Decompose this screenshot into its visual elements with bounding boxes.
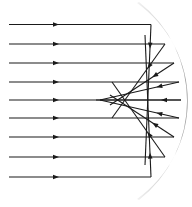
arrow-head-icon	[53, 98, 59, 103]
mirror-surface	[137, 2, 188, 200]
arrow-head-icon	[161, 98, 167, 103]
arrow-head-icon	[148, 42, 153, 48]
arrow-head-icon	[53, 116, 59, 121]
reflected-ray	[100, 82, 179, 100]
arrow-head-icon	[151, 121, 159, 128]
spherical-aberration-diagram: Spherical aberration in a concave mirror	[0, 0, 192, 207]
arrow-head-icon	[148, 153, 153, 159]
reflected-ray	[112, 82, 165, 157]
reflected-ray	[112, 44, 165, 118]
arrow-head-icon	[53, 175, 59, 180]
arrow-head-icon	[151, 72, 159, 79]
reflected-ray	[100, 100, 179, 118]
arrow-head-icon	[53, 135, 59, 140]
concave-mirror	[137, 2, 188, 200]
arrow-head-icon	[53, 42, 59, 47]
arrow-head-icon	[53, 22, 59, 27]
light-rays	[9, 22, 181, 179]
arrow-head-icon	[53, 61, 59, 66]
arrow-head-icon	[53, 80, 59, 85]
arrow-head-icon	[53, 155, 59, 160]
